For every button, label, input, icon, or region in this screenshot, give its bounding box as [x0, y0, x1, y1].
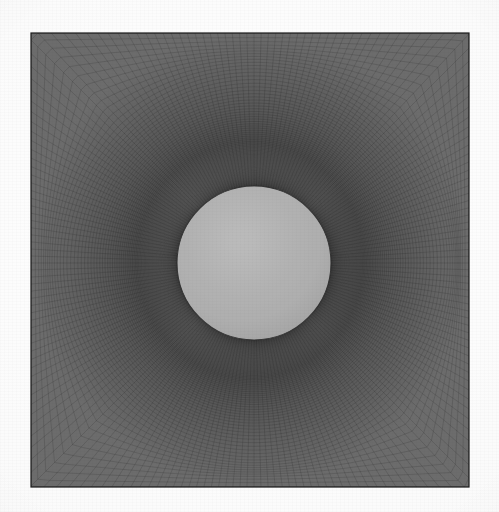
computational-mesh-canvas	[0, 0, 499, 512]
cylinder-hole	[177, 186, 331, 340]
mesh-figure-root	[0, 0, 499, 512]
